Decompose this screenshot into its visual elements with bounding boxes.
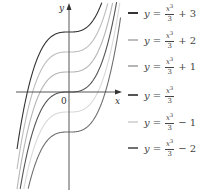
- legend-swatch: [128, 39, 138, 41]
- legend-swatch: [128, 147, 138, 149]
- legend-item: y= x33 − 1: [128, 110, 196, 134]
- legend-swatch: [128, 94, 138, 96]
- legend-item: y= x33 + 1: [128, 54, 196, 78]
- origin-label: 0: [61, 96, 67, 106]
- legend-swatch: [128, 121, 138, 123]
- legend: y= x33 + 3 y= x33 + 2 y= x33 + 1 y= x33 …: [128, 0, 208, 195]
- x-axis-arrow-icon: [115, 90, 122, 95]
- y-axis-arrow-icon: [67, 3, 72, 10]
- legend-equation: y= x33 − 1: [144, 113, 196, 132]
- legend-equation: y= x33 + 3: [144, 4, 196, 23]
- legend-swatch: [128, 12, 138, 14]
- legend-equation: y= x33 + 1: [144, 57, 196, 76]
- cubic-family-plot: x y 0: [0, 0, 130, 195]
- legend-item: y= x33: [128, 83, 178, 107]
- y-axis-label: y: [58, 3, 65, 13]
- legend-item: y= x33 + 3: [128, 1, 196, 25]
- legend-swatch: [128, 65, 138, 67]
- curve-line: [20, 2, 116, 189]
- legend-item: y= x33 − 2: [128, 136, 196, 160]
- legend-equation: y= x33 + 2: [144, 31, 196, 50]
- x-axis-label: x: [115, 96, 120, 106]
- curve-line: [28, 18, 120, 189]
- legend-equation: y= x33 − 2: [144, 139, 196, 158]
- curve-line: [17, 3, 102, 150]
- curve-line: [17, 3, 108, 169]
- legend-item: y= x33 + 2: [128, 28, 196, 52]
- legend-equation: y= x33: [144, 86, 178, 105]
